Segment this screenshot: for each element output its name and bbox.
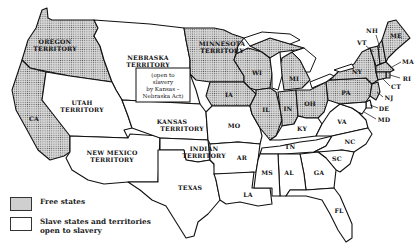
label-wi: WI: [251, 69, 262, 76]
note-line-4: Nebraska Act): [143, 93, 184, 99]
legend-item-slave-states: Slave states and territories open to sla…: [10, 217, 210, 235]
label-ar: AR: [236, 154, 248, 161]
legend-label-slave: Slave states and territories open to sla…: [40, 217, 151, 235]
region-rhode-island: [386, 72, 390, 78]
label-kansas: KANSAS: [157, 118, 188, 125]
lake-michigan: [270, 52, 282, 90]
label-oh: OH: [304, 100, 316, 107]
label-ny: NY: [352, 68, 363, 75]
region-minnesota-territory: [184, 28, 244, 82]
label-new-mexico: NEW MEXICO: [86, 149, 137, 156]
label-tn: TN: [285, 143, 296, 150]
label-nc: NC: [345, 138, 356, 145]
label-texas: TEXAS: [178, 184, 203, 191]
label-ms: MS: [261, 169, 273, 176]
label-in: IN: [284, 105, 293, 112]
free-states-swatch: [10, 197, 32, 211]
label-ca: CA: [29, 115, 39, 122]
label-la: LA: [243, 191, 253, 198]
label-md: MD: [378, 116, 391, 123]
label-new-mexico-territory: TERRITORY: [90, 156, 134, 163]
label-al: AL: [283, 169, 294, 176]
region-new-jersey: [370, 82, 380, 100]
region-delaware: [366, 100, 372, 108]
label-pa: PA: [341, 89, 350, 96]
label-utah: UTAH: [71, 99, 92, 106]
label-mo: MO: [228, 122, 241, 129]
legend-label-slave-line-1: Slave states and territories: [40, 217, 151, 226]
label-oregon: OREGON: [39, 38, 72, 45]
note-line-2: slavery: [153, 79, 174, 86]
region-maine: [382, 20, 410, 62]
label-utah-territory: TERRITORY: [60, 106, 104, 113]
label-ia: IA: [225, 91, 233, 98]
label-nh: NH: [366, 27, 378, 34]
label-va: VA: [336, 118, 347, 125]
legend-label-slave-line-2: open to slavery: [40, 226, 151, 235]
note-line-3: by Kansas –: [146, 86, 179, 93]
label-ky: KY: [297, 125, 307, 132]
label-minnesota-territory: TERRITORY: [200, 47, 244, 54]
label-ri: RI: [403, 75, 411, 82]
region-new-york: [330, 48, 378, 84]
label-il: IL: [262, 106, 270, 113]
note-line-1: (open to: [151, 72, 175, 79]
label-oregon-territory: TERRITORY: [33, 45, 77, 52]
label-de: DE: [379, 105, 390, 112]
legend-label-free: Free states: [40, 197, 85, 206]
legend-item-free-states: Free states: [10, 197, 210, 211]
label-fl: FL: [334, 207, 344, 214]
kansas-nebraska-act-note: (open to slavery by Kansas – Nebraska Ac…: [136, 68, 190, 102]
label-ga: GA: [314, 169, 325, 176]
label-nebraska: NEBRASKA: [127, 54, 169, 61]
label-minnesota: MINNESOTA: [199, 40, 246, 47]
label-nj: NJ: [385, 94, 394, 102]
label-kansas-territory: TERRITORY: [160, 125, 204, 132]
region-connecticut: [376, 72, 386, 80]
label-ma: MA: [402, 58, 414, 65]
label-ct: CT: [391, 83, 401, 90]
label-vt: VT: [356, 39, 367, 46]
label-sc: SC: [332, 155, 342, 162]
label-me: ME: [390, 32, 402, 39]
label-nebraska-territory: TERRITORY: [126, 61, 170, 68]
label-indian-territory: TERRITORY: [182, 152, 226, 159]
label-indian: INDIAN: [190, 145, 219, 152]
label-mi: MI: [289, 75, 299, 82]
region-florida: [286, 188, 352, 242]
slave-states-swatch: [10, 217, 32, 231]
map-legend: Free states Slave states and territories…: [10, 197, 210, 241]
